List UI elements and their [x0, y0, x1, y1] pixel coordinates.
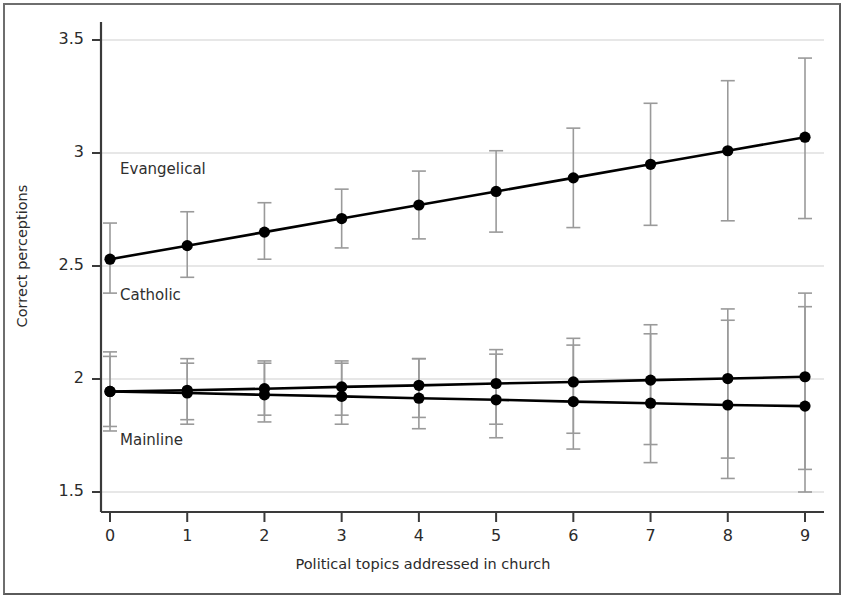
y-tick-label-1.5: 1.5 [20, 481, 84, 500]
y-tick-label-3: 3 [20, 142, 84, 161]
data-point [799, 401, 810, 412]
data-point [645, 159, 656, 170]
data-point [799, 371, 810, 382]
data-point [568, 396, 579, 407]
x-tick-label-0: 0 [90, 526, 130, 545]
x-tick-label-5: 5 [476, 526, 516, 545]
y-tick-label-3.5: 3.5 [20, 29, 84, 48]
data-point [413, 393, 424, 404]
y-tick-label-2: 2 [20, 368, 84, 387]
line-evangelical [110, 137, 805, 259]
x-tick-label-3: 3 [322, 526, 362, 545]
data-point [491, 378, 502, 389]
line-mainline [110, 391, 805, 406]
errorbars-evangelical [103, 58, 812, 293]
data-point [491, 394, 502, 405]
data-point [645, 375, 656, 386]
data-point [568, 172, 579, 183]
data-point [259, 227, 270, 238]
data-point [722, 399, 733, 410]
data-point [104, 254, 115, 265]
data-point [336, 391, 347, 402]
data-point [336, 213, 347, 224]
x-axis-title: Political topics addressed in church [0, 556, 846, 572]
series-label-mainline: Mainline [120, 431, 183, 449]
data-point [722, 373, 733, 384]
figure-container: Correct perceptions Political topics add… [0, 0, 846, 602]
x-tick-label-7: 7 [631, 526, 671, 545]
data-point [413, 380, 424, 391]
y-tick-label-2.5: 2.5 [20, 255, 84, 274]
x-tick-label-9: 9 [785, 526, 825, 545]
series-label-evangelical: Evangelical [120, 160, 206, 178]
data-point [799, 132, 810, 143]
x-tick-label-6: 6 [553, 526, 593, 545]
data-point [491, 186, 502, 197]
data-point [645, 398, 656, 409]
data-point [104, 386, 115, 397]
x-tick-label-8: 8 [708, 526, 748, 545]
x-tick-label-2: 2 [244, 526, 284, 545]
data-point [568, 376, 579, 387]
x-tick-label-4: 4 [399, 526, 439, 545]
data-point [259, 389, 270, 400]
data-point [182, 240, 193, 251]
data-point [182, 387, 193, 398]
errorbars-catholic [103, 293, 812, 469]
series-label-catholic: Catholic [120, 286, 181, 304]
data-point [413, 199, 424, 210]
x-tick-label-1: 1 [167, 526, 207, 545]
data-point [722, 145, 733, 156]
